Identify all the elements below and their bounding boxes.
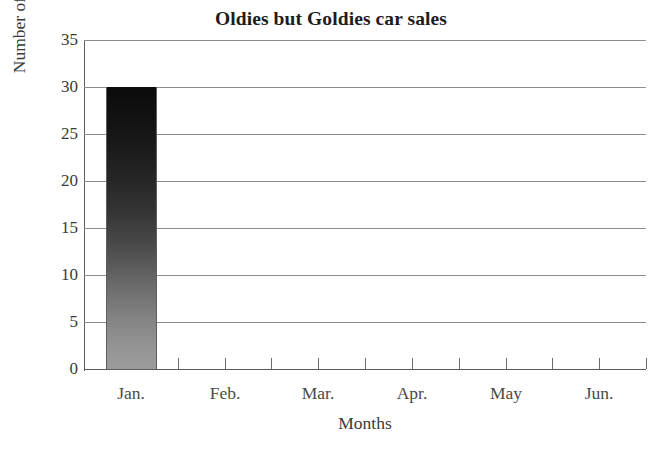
x-axis-tick bbox=[178, 358, 179, 369]
y-axis-tick-label: 20 bbox=[40, 172, 78, 189]
x-axis-tick-labels: Jan.Feb.Mar.Apr.MayJun. bbox=[84, 383, 646, 411]
y-axis-title: Number of cars sold bbox=[9, 0, 31, 120]
x-axis-tick bbox=[412, 358, 413, 369]
gridline bbox=[84, 181, 646, 182]
y-axis-tick-label: 10 bbox=[40, 266, 78, 283]
x-axis-tick-label: Jun. bbox=[549, 383, 649, 404]
x-axis-title: Months bbox=[84, 413, 646, 434]
bar-chart-figure: Oldies but Goldies car sales Number of c… bbox=[0, 0, 662, 463]
y-axis-tick-label: 25 bbox=[40, 125, 78, 142]
x-axis-tick bbox=[646, 358, 647, 369]
x-axis-tick bbox=[271, 358, 272, 369]
gridline bbox=[84, 40, 646, 41]
y-axis-tick-labels: 05101520253035 bbox=[36, 0, 78, 463]
plot-area bbox=[84, 40, 646, 369]
x-axis-tick-label: Jan. bbox=[81, 383, 181, 404]
x-axis-tick bbox=[506, 358, 507, 369]
gridline bbox=[84, 275, 646, 276]
x-axis-tick-label: Mar. bbox=[268, 383, 368, 404]
gridline bbox=[84, 87, 646, 88]
x-axis-tick-label: May bbox=[456, 383, 556, 404]
y-axis-tick-label: 35 bbox=[40, 31, 78, 48]
x-axis-line bbox=[84, 369, 646, 370]
gridline bbox=[84, 322, 646, 323]
x-axis-tick bbox=[318, 358, 319, 369]
bar bbox=[106, 87, 157, 369]
x-axis-tick bbox=[599, 358, 600, 369]
x-axis-tick-label: Apr. bbox=[362, 383, 462, 404]
x-axis-tick bbox=[225, 358, 226, 369]
gridline bbox=[84, 134, 646, 135]
gridline bbox=[84, 228, 646, 229]
y-axis-tick-label: 0 bbox=[40, 360, 78, 377]
x-axis-tick bbox=[552, 358, 553, 369]
x-axis-tick bbox=[365, 358, 366, 369]
y-axis-tick-label: 30 bbox=[40, 78, 78, 95]
y-axis-tick-label: 5 bbox=[40, 313, 78, 330]
x-axis-tick bbox=[459, 358, 460, 369]
chart-title: Oldies but Goldies car sales bbox=[0, 8, 662, 30]
x-axis-tick-label: Feb. bbox=[175, 383, 275, 404]
y-axis-tick-label: 15 bbox=[40, 219, 78, 236]
